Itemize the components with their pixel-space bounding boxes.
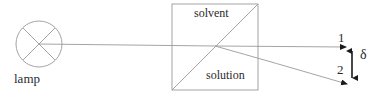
delta-label: δ [360,48,367,62]
optical-ray-diagram: lamp solvent solution 1 2 δ [0,0,377,98]
ray-1-label: 1 [338,31,345,44]
ray-1-line [215,46,346,47]
ray-2-label: 2 [337,63,344,76]
solution-label: solution [206,69,245,81]
incident-beam [39,44,215,46]
diagram-canvas [0,0,377,98]
lamp-label: lamp [14,72,40,85]
solvent-label: solvent [194,7,229,19]
